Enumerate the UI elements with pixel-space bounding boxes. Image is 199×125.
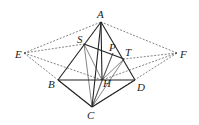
point-label-d: D <box>136 81 145 93</box>
point-label-f: F <box>179 48 187 60</box>
segment-bc <box>58 80 92 107</box>
dashed-segment-fh <box>102 53 177 80</box>
segment-cd <box>92 80 135 107</box>
dashed-segment-es <box>24 44 84 53</box>
point-label-s: S <box>77 33 83 45</box>
point-label-h: H <box>102 77 112 89</box>
geometry-diagram: ASPTEFBHDC <box>0 0 199 125</box>
point-label-p: P <box>108 41 116 53</box>
point-label-a: A <box>96 8 104 20</box>
point-label-b: B <box>48 78 55 90</box>
thin-edges <box>84 44 124 107</box>
thin-segment-sc <box>84 44 92 107</box>
point-label-c: C <box>87 109 95 121</box>
point-label-t: T <box>125 46 132 58</box>
point-label-e: E <box>14 48 22 60</box>
